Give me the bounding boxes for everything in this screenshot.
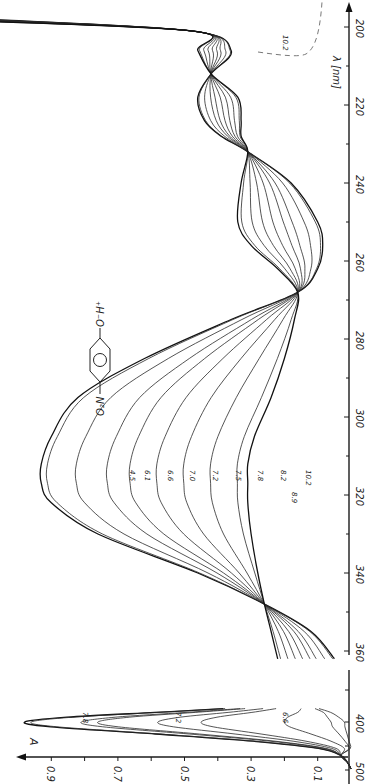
abs-tick-0.9: 0.9 [45,766,56,782]
curve-label-7.5: 7.5 [234,470,242,482]
axis-arrow-icon [346,2,353,12]
axis-arrow-icon [16,754,26,761]
spectrum-ph-6.1 [0,19,333,659]
spectrum-ph-7.8 [0,19,298,659]
lambda-tick-320: 320 [354,487,365,506]
inset-tick-400: 400 [354,714,365,733]
inset-spectrum-ph-10.2 [24,709,351,769]
lambda-tick-260: 260 [354,253,365,272]
curve-labels: 4.56.16.67.07.27.57.88.28.910.27.87.26.6 [81,470,312,724]
spectrum-ph-8.2 [0,19,298,659]
inset-curve-label-7.8: 7.8 [81,712,89,724]
lambda-tick-220: 220 [354,97,365,116]
lambda-tick-340: 340 [354,565,365,584]
dashed-curve-label: 10.2 [281,35,289,51]
lambda-axis-label: λ [nm] [331,55,342,89]
hydroxy-group-label: O⁻H⁺ [95,301,106,327]
nitro-group-label: O₂N [95,396,106,416]
absorbance-axis-label: A [27,737,40,746]
curve-label-7.8: 7.8 [256,470,264,482]
lambda-tick-240: 240 [354,175,365,194]
inset-tick-500: 500 [354,762,365,781]
lambda-tick-200: 200 [354,19,365,38]
spectrum-ph-10.2 [0,19,299,659]
abs-tick-0.5: 0.5 [179,766,190,782]
lambda-tick-300: 300 [354,409,365,428]
curve-label-4.5: 4.5 [128,470,136,482]
abs-tick-0.7: 0.7 [112,766,123,783]
inset-spectra [24,709,351,769]
inset-spectrum-ph-8.9 [31,709,351,769]
spectrum-ph-7.0 [0,19,316,659]
lambda-tick-280: 280 [354,331,365,350]
inset-lambda-axis: 400 500 [345,670,365,784]
lambda-axis: 200220240260280300320340360 λ [nm] [331,2,365,662]
lambda-tick-360: 360 [354,643,365,662]
spectrum-ph-7.2 [0,19,310,659]
inset-curve-label-6.6: 6.6 [281,712,289,724]
curve-label-7.0: 7.0 [188,470,196,482]
spectra-figure: 200220240260280300320340360 λ [nm] 400 5… [0,0,385,784]
curve-label-8.9: 8.9 [290,492,298,504]
curve-label-6.1: 6.1 [143,470,151,481]
curve-label-7.2: 7.2 [211,470,219,482]
spectrum-ph-8.9 [0,19,298,659]
curve-label-8.2: 8.2 [279,470,287,482]
inset-curve-label-7.2: 7.2 [174,712,182,724]
main-spectra [0,19,334,659]
spectrum-ph-6.6 [0,19,325,659]
abs-tick-0.3: 0.3 [245,766,256,782]
curve-label-6.6: 6.6 [166,470,174,482]
curve-label-10.2: 10.2 [304,470,312,486]
dashed-curve-10.2 [258,2,322,56]
molecule-structure: O₂N O⁻H⁺ [90,301,110,416]
abs-tick-0.1: 0.1 [312,766,323,782]
benzene-ring-icon [94,354,107,367]
